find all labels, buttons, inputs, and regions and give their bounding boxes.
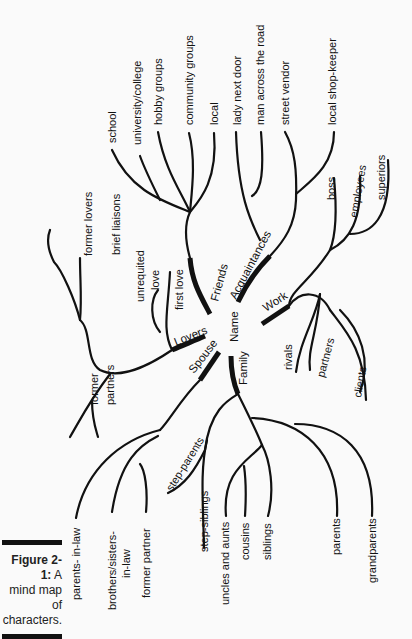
label-parents-in-law: parents- in-law: [70, 528, 82, 600]
label-in-law: in-law: [120, 549, 132, 578]
friends-main-branch: [190, 258, 210, 314]
label-brief-liaisons: brief liaisons: [110, 193, 122, 255]
label-street-vendor: street vendor: [279, 60, 291, 125]
label-former: former: [88, 373, 100, 405]
caption-line-2: mind map of: [2, 583, 62, 613]
caption-text-a: A: [54, 568, 62, 582]
label-boss: boss: [325, 176, 337, 200]
branch-unrequited: [152, 290, 160, 332]
label-employees: employees: [347, 163, 368, 218]
label-first-love: first love: [173, 269, 185, 310]
label-step-siblings: step-siblings: [198, 490, 210, 552]
label-rivals: rivals: [282, 344, 294, 370]
branch-brief-liaisons: [80, 258, 81, 320]
label-love: love: [149, 270, 161, 290]
branch-parents: [252, 418, 337, 516]
branch-cousins: [244, 466, 246, 516]
label-local: local: [208, 102, 220, 125]
branch-uncles-aunts: [226, 445, 262, 516]
label-former-partner: former partner: [140, 528, 152, 598]
label-partners: partners: [314, 336, 336, 379]
branch-man-across-road: [252, 132, 262, 196]
caption-bottom-rule: [2, 634, 62, 639]
label-cousins: cousins: [239, 522, 251, 560]
branch-family-left: [205, 394, 238, 450]
caption-line-3: characters.: [2, 613, 62, 628]
label-former-lovers: former lovers: [82, 191, 94, 256]
branch-siblings: [262, 445, 271, 516]
label-step-parents: step-parents: [164, 434, 207, 493]
label-family: Family: [237, 351, 249, 385]
label-grandparents: grandparents: [366, 518, 378, 583]
label-uncles-aunts: uncles and aunts: [219, 521, 231, 605]
label-parents: parents: [330, 518, 342, 555]
label-man-across-road: man across the road: [254, 25, 266, 125]
spouse-trunk: [160, 380, 200, 430]
branch-street-vendor: [285, 132, 296, 200]
center-label: Name: [228, 311, 240, 342]
figure-caption: Figure 2-1: A mind map of characters.: [2, 540, 62, 639]
label-superiors: superiors: [375, 154, 387, 200]
label-siblings: siblings: [261, 523, 273, 560]
label-hobby-groups: hobby groups: [152, 58, 164, 125]
caption-line-1: Figure 2-1: A: [2, 553, 62, 583]
branch-former-partner: [140, 464, 147, 512]
acquaintances-trunk: [270, 200, 296, 256]
label-friends: Friends: [208, 262, 230, 302]
work-trunk-up: [289, 250, 330, 306]
label-unrequited: unrequited: [134, 250, 146, 302]
label-brothers-sisters: brothers/sisters-: [106, 531, 118, 610]
branch-first-love: [166, 272, 172, 350]
branch-brothers-sisters: [112, 436, 158, 512]
work-trunk-down: [289, 294, 330, 310]
label-partners-lovers: partners: [104, 364, 116, 405]
branch-rivals: [296, 294, 320, 372]
label-school: school: [106, 111, 118, 143]
branch-community: [189, 133, 193, 212]
label-university: university/college: [131, 61, 143, 145]
label-shop-keeper: local shop-keeper: [326, 38, 338, 125]
branch-lady-next-door: [236, 132, 260, 240]
label-lady-next-door: lady next door: [231, 56, 243, 125]
branch-former-lovers: [48, 230, 80, 320]
label-community-groups: community groups: [183, 35, 195, 125]
friends-trunk: [186, 212, 190, 258]
label-acquaintances: Acquaintances: [227, 228, 273, 300]
caption-top-rule: [2, 540, 62, 545]
